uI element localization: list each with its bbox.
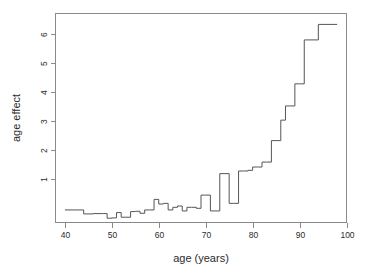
x-axis-tick-labels: 40 50 60 70 80 90 100	[61, 230, 355, 240]
y-tick-label-2: 3	[39, 119, 49, 124]
y-axis-title: age effect	[10, 94, 22, 142]
y-axis-tick-labels: 1 2 3 4 5 6	[39, 32, 49, 182]
x-tick-label-0: 40	[61, 230, 71, 240]
y-tick-label-5: 6	[39, 32, 49, 37]
x-tick-label-3: 70	[202, 230, 212, 240]
x-tick-label-5: 90	[296, 230, 306, 240]
y-tick-label-4: 5	[39, 61, 49, 66]
y-tick-label-1: 2	[39, 148, 49, 153]
step-chart-svg: 40 50 60 70 80 90 100 1 2 3 4 5 6	[0, 0, 373, 273]
y-tick-label-0: 1	[39, 177, 49, 182]
y-axis-ticks	[51, 35, 56, 180]
plot-background	[56, 14, 347, 223]
x-tick-label-2: 60	[155, 230, 165, 240]
x-tick-label-6: 100	[340, 230, 354, 240]
x-axis-title: age (years)	[173, 252, 229, 264]
x-tick-label-4: 80	[249, 230, 259, 240]
y-tick-label-3: 4	[39, 90, 49, 95]
x-tick-label-1: 50	[108, 230, 118, 240]
x-axis-ticks	[66, 223, 348, 228]
chart-figure: 40 50 60 70 80 90 100 1 2 3 4 5 6	[0, 0, 373, 273]
